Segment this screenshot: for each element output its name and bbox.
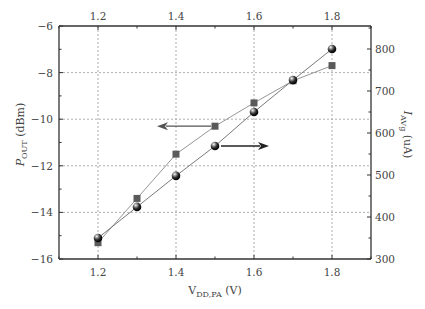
y-right-axis-label-unit: (uA): [401, 131, 414, 158]
y-right-tick-label: 400: [375, 211, 395, 223]
x-tick-label-bottom: 1.8: [324, 266, 341, 278]
x-tick-label-top: 1.2: [90, 10, 107, 22]
sphere-marker: [211, 142, 220, 151]
square-marker: [173, 151, 180, 158]
y-right-axis-label-sub: AVg: [399, 114, 408, 131]
sphere-marker: [289, 76, 298, 85]
x-axis-label: VDD,PA (V): [187, 284, 242, 299]
square-marker: [329, 62, 336, 69]
y-right-axis-label: IAVg (uA): [399, 110, 414, 159]
axis-labels: 1.21.21.41.41.61.61.81.8−16−14−12−10−8−6…: [14, 10, 414, 299]
y-left-tick-label: −16: [31, 253, 53, 265]
sphere-marker: [250, 108, 259, 117]
x-axis-label-sub: DD,PA: [196, 290, 222, 299]
square-marker: [251, 99, 258, 106]
dual-axis-line-chart: 1.21.21.41.41.61.61.81.8−16−14−12−10−8−6…: [0, 0, 425, 309]
y-right-tick-label: 800: [375, 43, 395, 55]
sphere-marker: [172, 172, 181, 181]
x-tick-label-top: 1.4: [168, 10, 185, 22]
y-left-tick-label: −8: [38, 67, 53, 79]
x-tick-label-top: 1.6: [246, 10, 263, 22]
y-left-tick-label: −6: [38, 20, 54, 32]
y-left-axis-label-unit: (dBm): [14, 103, 27, 141]
x-tick-label-bottom: 1.4: [168, 266, 185, 278]
y-right-tick-label: 300: [375, 253, 395, 265]
y-left-tick-label: −10: [31, 113, 53, 125]
y-left-tick-label: −12: [31, 160, 53, 172]
sphere-marker: [328, 45, 337, 54]
x-tick-label-bottom: 1.6: [246, 266, 263, 278]
y-left-axis-label-sub: OUT: [20, 140, 29, 159]
y-left-axis-label: POUT (dBm): [14, 103, 29, 168]
y-left-tick-label: −14: [31, 206, 53, 218]
y-right-tick-label: 700: [375, 85, 395, 97]
sphere-marker: [94, 234, 103, 243]
square-marker: [212, 123, 219, 130]
square-marker: [134, 195, 141, 202]
pout-line: [98, 66, 332, 243]
sphere-marker: [133, 203, 142, 212]
x-tick-label-bottom: 1.2: [90, 266, 107, 278]
x-axis-label-unit: (V): [222, 284, 242, 297]
x-tick-label-top: 1.8: [324, 10, 341, 22]
y-right-tick-label: 600: [375, 127, 395, 139]
y-right-tick-label: 500: [375, 169, 395, 181]
